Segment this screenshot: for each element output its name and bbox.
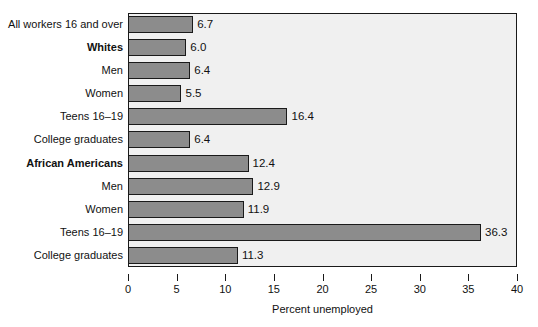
x-tick <box>420 274 421 281</box>
x-tick-label: 30 <box>414 283 426 295</box>
bar-rows-layer: All workers 16 and over6.7Whites6.0Men6.… <box>128 13 517 267</box>
bar-value-label: 11.3 <box>238 247 264 264</box>
bar-value-label: 12.9 <box>253 178 279 195</box>
x-tick <box>468 274 469 281</box>
bar-row: Women5.5 <box>128 82 517 105</box>
bar <box>128 85 181 102</box>
x-tick <box>274 274 275 281</box>
x-tick-label: 0 <box>125 283 131 295</box>
x-tick <box>128 274 129 281</box>
bar-value-label: 6.0 <box>186 39 206 56</box>
x-tick-label: 5 <box>174 283 180 295</box>
category-label: Teens 16–19 <box>60 105 128 128</box>
bar <box>128 131 190 148</box>
bar-row: College graduates6.4 <box>128 128 517 151</box>
x-tick-label: 35 <box>462 283 474 295</box>
bar-value-label: 36.3 <box>481 224 507 241</box>
category-label: Women <box>85 82 128 105</box>
bar <box>128 108 287 125</box>
bar-row: Teens 16–1936.3 <box>128 221 517 244</box>
category-label: Men <box>102 175 128 198</box>
x-tick-label: 15 <box>268 283 280 295</box>
x-tick-label: 10 <box>219 283 231 295</box>
category-label: College graduates <box>34 244 128 267</box>
bar-chart: All workers 16 and over6.7Whites6.0Men6.… <box>0 0 538 327</box>
bar-row: Teens 16–1916.4 <box>128 105 517 128</box>
x-tick <box>371 274 372 281</box>
category-label: Men <box>102 59 128 82</box>
bar-value-label: 5.5 <box>181 85 201 102</box>
category-label: College graduates <box>34 128 128 151</box>
bar-row: Women11.9 <box>128 198 517 221</box>
x-tick <box>177 274 178 281</box>
bar-row: Whites6.0 <box>128 36 517 59</box>
bar <box>128 155 249 172</box>
x-tick-label: 25 <box>365 283 377 295</box>
category-label: All workers 16 and over <box>8 13 128 36</box>
bar <box>128 247 238 264</box>
bar-row: College graduates11.3 <box>128 244 517 267</box>
x-tick-label: 20 <box>316 283 328 295</box>
category-label: Women <box>85 198 128 221</box>
category-label: Teens 16–19 <box>60 221 128 244</box>
bar <box>128 39 186 56</box>
bar-value-label: 12.4 <box>249 155 275 172</box>
x-axis: 0510152025303540 <box>128 274 517 300</box>
bar-row: All workers 16 and over6.7 <box>128 13 517 36</box>
bar <box>128 62 190 79</box>
x-tick-label: 40 <box>511 283 523 295</box>
bar-value-label: 16.4 <box>287 108 313 125</box>
bar <box>128 201 244 218</box>
bar-row: African Americans12.4 <box>128 152 517 175</box>
bar-row: Men12.9 <box>128 175 517 198</box>
bar-value-label: 11.9 <box>244 201 270 218</box>
bar <box>128 178 253 195</box>
bar-row: Men6.4 <box>128 59 517 82</box>
x-axis-title: Percent unemployed <box>128 303 517 315</box>
x-tick <box>517 274 518 281</box>
bar <box>128 16 193 33</box>
x-tick <box>225 274 226 281</box>
category-label: Whites <box>87 36 128 59</box>
x-tick <box>323 274 324 281</box>
bar <box>128 224 481 241</box>
bar-value-label: 6.4 <box>190 131 210 148</box>
bar-value-label: 6.7 <box>193 16 213 33</box>
category-label: African Americans <box>26 152 128 175</box>
bar-value-label: 6.4 <box>190 62 210 79</box>
